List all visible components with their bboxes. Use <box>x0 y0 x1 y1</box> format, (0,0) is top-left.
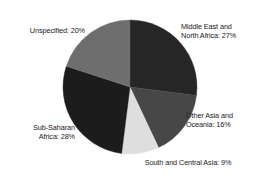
pie-label-south-and-central-asia: South and Central Asia: 9% <box>120 158 256 167</box>
pie-chart-figure: Middle East and North Africa: 27% Other … <box>0 0 259 175</box>
pie-label-unspecified: Unspecified: 20% <box>5 26 85 35</box>
pie-label-middle-east-north-africa: Middle East and North Africa: 27% <box>181 22 255 40</box>
pie-slice-group <box>63 20 197 154</box>
pie-label-sub-saharan-africa: Sub-Saharan Africa: 28% <box>3 123 75 141</box>
pie-label-other-asia-oceania: Other Asia and Oceania: 16% <box>186 111 256 129</box>
